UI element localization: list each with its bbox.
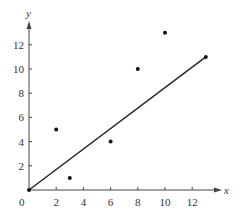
- scatter-chart: 2468101224681012 x y 0: [0, 0, 240, 214]
- axes: [27, 21, 223, 193]
- data-point: [54, 128, 58, 132]
- x-axis-label: x: [223, 184, 229, 196]
- x-tick-label: 2: [53, 196, 59, 208]
- x-tick-label: 6: [108, 196, 114, 208]
- x-tick-label: 12: [187, 196, 198, 208]
- x-tick-label: 4: [81, 196, 87, 208]
- y-axis-label: y: [25, 7, 31, 19]
- origin-label: 0: [19, 196, 25, 208]
- regression-line: [29, 57, 206, 190]
- data-point: [27, 188, 31, 192]
- y-tick-label: 4: [19, 136, 25, 148]
- y-axis-arrow-icon: [27, 21, 32, 29]
- axis-ticks: 2468101224681012: [13, 39, 198, 208]
- y-tick-label: 10: [13, 63, 25, 75]
- data-point: [204, 55, 208, 59]
- x-axis-arrow-icon: [214, 188, 222, 193]
- data-point: [109, 140, 113, 144]
- y-tick-label: 2: [19, 160, 25, 172]
- y-tick-label: 8: [19, 87, 25, 99]
- x-tick-label: 8: [135, 196, 141, 208]
- y-tick-label: 12: [13, 39, 24, 51]
- fitted-line: [29, 57, 206, 190]
- data-point: [163, 31, 167, 35]
- data-points: [27, 31, 208, 192]
- y-tick-label: 6: [19, 111, 25, 123]
- x-tick-label: 10: [160, 196, 172, 208]
- data-point: [136, 67, 140, 71]
- data-point: [68, 176, 72, 180]
